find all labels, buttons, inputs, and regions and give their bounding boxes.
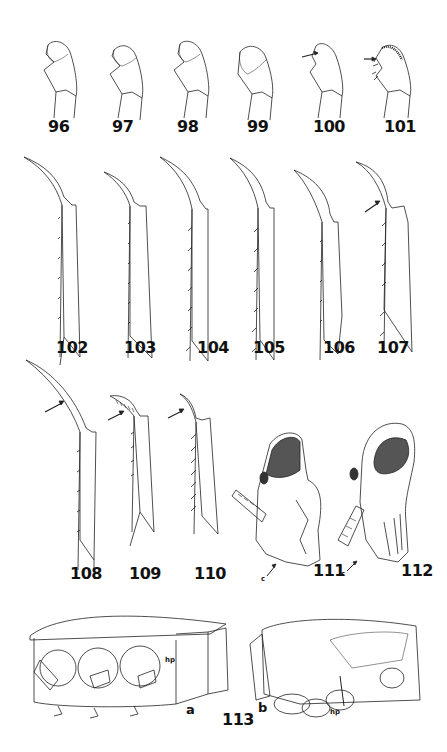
figure-number-108: 108: [70, 566, 102, 582]
figure-plate: 96 97 98 99 100 101 102 103 104 105 106 …: [0, 0, 447, 752]
tibia-drawings-row3: [26, 360, 218, 575]
figure-number-102: 102: [56, 340, 88, 356]
panel-letter-b: b: [258, 701, 267, 714]
figure-number-106: 106: [323, 340, 355, 356]
figure-number-101: 101: [384, 119, 416, 135]
figure-number-96: 96: [48, 119, 69, 135]
figure-number-109: 109: [129, 566, 161, 582]
figure-number-100: 100: [313, 119, 345, 135]
tibia-drawings-row2: [24, 157, 412, 365]
figure-number-105: 105: [253, 340, 285, 356]
figure-number-110: 110: [194, 566, 226, 582]
annotation-hp-a: hp: [165, 657, 175, 664]
figure-number-112: 112: [401, 563, 433, 579]
figure-number-97: 97: [112, 119, 133, 135]
annotation-c-111: c: [261, 576, 265, 583]
body-drawings-113: [30, 616, 420, 718]
figure-number-107: 107: [377, 340, 409, 356]
figure-number-99: 99: [247, 119, 268, 135]
figure-number-104: 104: [197, 340, 229, 356]
figure-number-113: 113: [222, 712, 254, 728]
head-drawings: [232, 423, 415, 576]
panel-letter-a: a: [186, 703, 195, 716]
annotation-hp-b: hp: [330, 709, 340, 716]
figure-number-103: 103: [124, 340, 156, 356]
panel-b: [250, 619, 420, 717]
palp-drawings: [44, 41, 411, 120]
illustration-drawings: [0, 0, 447, 752]
panel-a: [30, 616, 228, 718]
annotation-c-112: c: [341, 571, 345, 578]
figure-number-98: 98: [177, 119, 198, 135]
